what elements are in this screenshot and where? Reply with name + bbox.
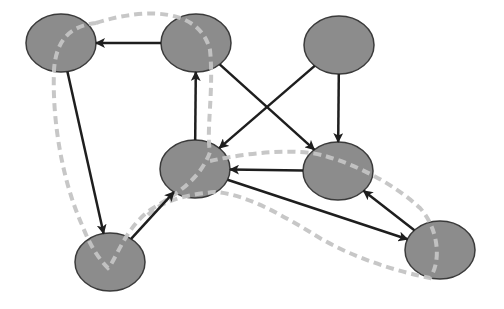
graph-canvas xyxy=(0,0,504,309)
directed-graph-diagram xyxy=(0,0,504,309)
graph-node-n4 xyxy=(160,140,230,198)
edge-n7-to-n5 xyxy=(364,191,415,230)
edges-layer xyxy=(67,43,414,239)
edge-n4-to-n2 xyxy=(195,72,196,140)
graph-node-n3 xyxy=(304,16,374,74)
graph-node-n2 xyxy=(161,14,231,72)
edge-n6-to-n4 xyxy=(131,192,174,239)
edge-n3-to-n5 xyxy=(338,74,339,142)
graph-node-n7 xyxy=(405,221,475,279)
edge-n1-to-n6 xyxy=(67,72,103,234)
edge-n5-to-n4 xyxy=(230,170,303,171)
